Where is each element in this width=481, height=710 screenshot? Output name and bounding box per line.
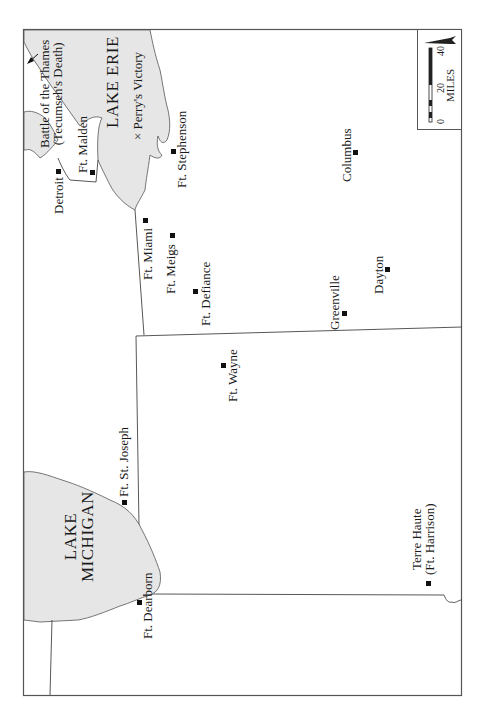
ft-meigs-marker: [170, 233, 175, 238]
ft-malden-label: Ft. Malden: [76, 116, 89, 173]
greenville-marker: [342, 311, 347, 316]
ft-defiance-label: Ft. Defiance: [199, 262, 212, 326]
scale-tick-40: 40: [436, 46, 446, 56]
illinois-indiana-border: [150, 594, 462, 603]
scale-bar-fill: [429, 48, 432, 85]
perrys-victory-label: × Perry's Victory: [131, 52, 144, 140]
dayton-label: Dayton: [372, 256, 385, 294]
lake-michigan-label: LAKE MICHIGAN: [62, 491, 96, 582]
scale-bar-segment: [429, 100, 432, 106]
ohio-indiana-border: [136, 327, 462, 336]
battle-thames-label: Battle of the Thames (Tecumseh's Death): [38, 40, 64, 148]
scale-bar-segment: [429, 112, 432, 118]
detroit-marker: [56, 169, 61, 174]
ft-dearborn-label: Ft. Dearborn: [141, 573, 154, 639]
greenville-label: Greenville: [328, 275, 341, 330]
ft-st-joseph-marker: [122, 500, 127, 505]
battle-thames-line2: (Tecumseh's Death): [51, 40, 64, 148]
terre-haute-marker: [426, 581, 431, 586]
scale-unit-label: MILES: [445, 69, 456, 102]
indiana-michigan-border: [136, 336, 139, 526]
map-canvas: [0, 0, 481, 710]
ft-miami-label: Ft. Miami: [141, 228, 154, 280]
ft-st-joseph-label: Ft. St. Joseph: [117, 427, 130, 497]
ft-malden-marker: [90, 170, 95, 175]
lake-erie-label: LAKE ERIE: [104, 36, 121, 128]
lake-michigan-label-line1: LAKE: [62, 491, 79, 582]
scale-tick-0: 0: [436, 119, 446, 124]
terre-haute-line2: (Ft. Harrison): [423, 504, 436, 576]
ft-meigs-label: Ft. Meigs: [164, 244, 177, 294]
terre-haute-label: Terre Haute (Ft. Harrison): [410, 504, 436, 576]
detroit-label: Detroit: [52, 177, 65, 214]
ft-wayne-label: Ft. Wayne: [226, 349, 239, 402]
illinois-west-line: [50, 620, 52, 695]
columbus-label: Columbus: [340, 129, 353, 182]
ft-miami-marker: [143, 218, 148, 223]
ft-stephenson-label: Ft. Stephenson: [175, 111, 188, 188]
lake-michigan-label-line2: MICHIGAN: [79, 491, 96, 582]
